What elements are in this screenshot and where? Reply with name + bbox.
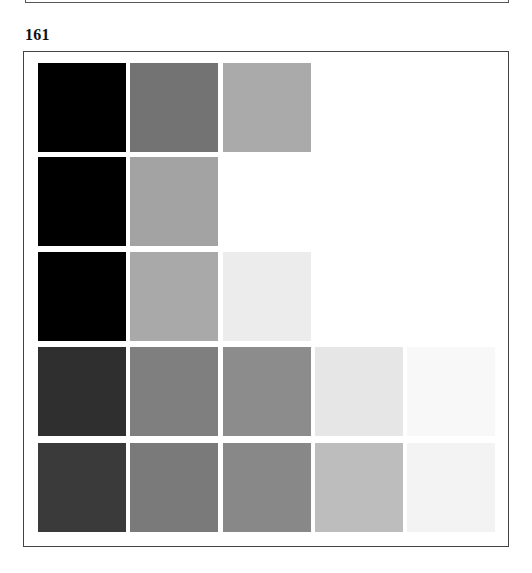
swatch-r5-c1 [38,443,126,532]
figure-number: 161 [25,26,50,44]
swatch-r3-c2 [130,252,218,341]
swatch-r5-c3 [223,443,311,532]
swatch-r5-c5 [407,443,495,532]
swatch-r1-c3 [223,63,311,152]
swatch-r1-c1 [38,63,126,152]
swatch-r2-c1 [38,157,126,246]
swatch-r4-c3 [223,347,311,436]
swatch-r5-c4 [315,443,403,532]
swatch-r5-c2 [130,443,218,532]
swatch-r4-c4 [315,347,403,436]
swatch-r4-c1 [38,347,126,436]
swatch-r4-c2 [130,347,218,436]
swatch-r1-c2 [130,63,218,152]
swatch-r3-c1 [38,252,126,341]
swatch-r2-c2 [130,157,218,246]
swatch-r4-c5 [407,347,495,436]
previous-figure-frame [25,0,509,3]
swatch-r3-c3 [223,252,311,341]
